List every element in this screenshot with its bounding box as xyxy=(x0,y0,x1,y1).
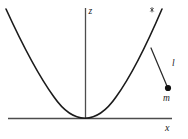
x-axis-label: x xyxy=(164,122,170,133)
physics-diagram-figure: z x l m xyxy=(0,0,188,139)
parabola-curve xyxy=(6,9,162,118)
pendulum-mass-dot xyxy=(165,85,171,91)
rod-length-label: l xyxy=(172,58,175,68)
top-tick-mark xyxy=(151,8,154,12)
mass-label: m xyxy=(163,93,170,103)
diagram-canvas: z x l m xyxy=(0,0,188,139)
pendulum-rod xyxy=(151,48,168,87)
z-axis-label: z xyxy=(88,6,93,16)
